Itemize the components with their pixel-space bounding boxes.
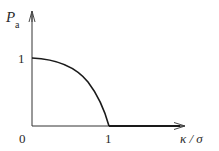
x-tick-0: 0 xyxy=(19,131,26,146)
y-tick-1: 1 xyxy=(18,51,25,66)
x-axis-label: κ / σ xyxy=(180,131,203,146)
curve-pa xyxy=(32,58,109,126)
chart: P a 1 0 1 κ / σ xyxy=(0,0,219,151)
y-axis xyxy=(29,11,35,126)
y-axis-label-subscript: a xyxy=(15,19,20,30)
y-axis-label: P xyxy=(5,9,15,25)
x-tick-1: 1 xyxy=(105,131,112,146)
y-axis-arrow-icon xyxy=(29,11,35,22)
